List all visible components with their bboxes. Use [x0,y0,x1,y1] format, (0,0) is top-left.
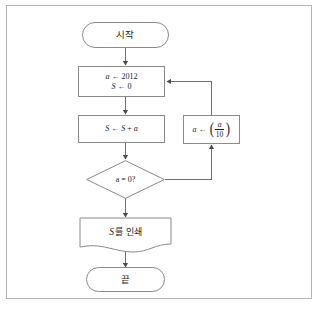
node-divide-lhs: a [193,125,197,135]
node-init-line1-var: a [106,72,110,81]
node-accumulate[interactable]: S ← S + a [78,115,165,143]
node-accumulate-arrow: ← [111,124,119,133]
node-end[interactable]: 끝 [86,267,165,292]
node-start[interactable]: 시작 [82,22,169,48]
node-divide-denominator: 10 [215,130,225,138]
node-init-line-1: a ← 2012 [106,72,138,82]
flowchart-canvas: 시작 a ← 2012 S ← 0 S ← S + a a [0,0,323,316]
node-end-label: 끝 [121,274,131,286]
node-init-line2-var: S [112,82,116,91]
node-accumulate-expression: S ← S + a [105,124,138,134]
node-decision[interactable]: a = 0? [86,160,165,199]
node-divide-numerator: a [217,121,223,129]
node-print[interactable]: S를 인쇄 [79,217,172,253]
node-init-line2-value: 0 [128,82,132,91]
floor-bracket-close-icon: ) [225,122,229,136]
node-init-line1-value: 2012 [122,72,138,81]
node-divide-arrow: ← [199,125,207,135]
node-accumulate-op: + [127,124,132,133]
node-print-var: S [109,227,114,237]
node-accumulate-lhs: S [105,124,109,133]
node-init-line2-arrow: ← [118,82,126,91]
node-init-line-2: S ← 0 [106,82,138,92]
node-divide-expression: a ← ( a 10 ) [193,121,231,138]
floor-bracket-open-icon: ( [209,122,213,136]
node-accumulate-rhs-a: S [121,124,125,133]
node-decision-condition: a = 0? [86,160,165,199]
node-init-lines: a ← 2012 S ← 0 [106,72,138,92]
page-border-frame [6,5,312,299]
node-init[interactable]: a ← 2012 S ← 0 [78,66,165,97]
node-init-line1-arrow: ← [112,72,120,81]
node-divide[interactable]: a ← ( a 10 ) [183,115,240,144]
node-start-label: 시작 [116,29,135,41]
node-print-label: S를 인쇄 [79,217,172,253]
node-divide-fraction: a 10 [215,121,225,138]
node-accumulate-rhs-b: a [134,124,138,133]
node-print-suffix: 를 인쇄 [115,225,142,238]
